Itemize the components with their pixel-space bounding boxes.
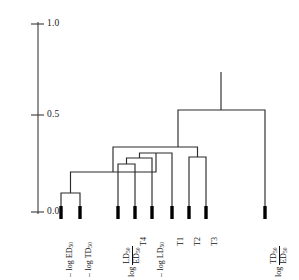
y-axis [31,22,44,214]
link-m1 [61,193,80,206]
leaf-markers [61,206,265,219]
leaf-label-4: T4 [140,237,148,246]
link-m8-root [178,110,265,206]
leaf-label-5: – log LD50 [157,242,166,277]
link-m7 [113,147,198,172]
leaf-label-3: log LD50ED50 [123,247,142,278]
leaf-label-6: T1 [177,237,185,246]
y-tick-label-0.5: 0.5 [47,109,59,119]
leaf-label-2: – log TD50 [85,242,94,277]
y-tick-label-0.0: 0.0 [47,206,59,216]
link-m3 [127,158,153,206]
link-m6 [189,157,206,206]
link-m2 [118,164,135,206]
y-tick-label-1.0: 1.0 [47,18,59,28]
dendrogram-links [61,72,265,206]
dendrogram-plot [0,0,299,280]
leaf-label-1: – log ED50 [66,242,75,277]
leaf-label-9: log TD50ED50 [270,247,289,278]
leaf-label-7: T2 [194,237,202,246]
leaf-label-8: T3 [211,237,219,246]
